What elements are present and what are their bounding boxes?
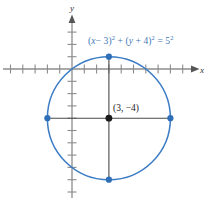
- point-bottom-endpoint: [106, 177, 112, 183]
- x-axis: x: [3, 65, 204, 75]
- point-center: [106, 115, 113, 122]
- circle-graph-figure: x y: [0, 0, 212, 201]
- equation-minus-h: − 3: [96, 36, 109, 46]
- y-axis-arrow-icon: [69, 15, 76, 24]
- equation-plus-k: + 4: [133, 36, 148, 46]
- point-right-endpoint: [167, 115, 173, 121]
- x-axis-arrow-icon: [191, 66, 200, 73]
- equation-exponent-3: 2: [170, 34, 173, 41]
- center-point-label: (3, −4): [113, 103, 139, 113]
- equation-plus: +: [115, 36, 125, 46]
- point-top-endpoint: [106, 54, 112, 60]
- graph-canvas: x y: [0, 0, 212, 201]
- y-axis-label: y: [69, 3, 74, 13]
- equation-equals-radius: = 5: [155, 36, 170, 46]
- point-left-endpoint: [44, 115, 50, 121]
- equation-annotation: (x− 3)2 + (y + 4)2 = 52: [88, 34, 174, 46]
- x-axis-label: x: [199, 65, 204, 75]
